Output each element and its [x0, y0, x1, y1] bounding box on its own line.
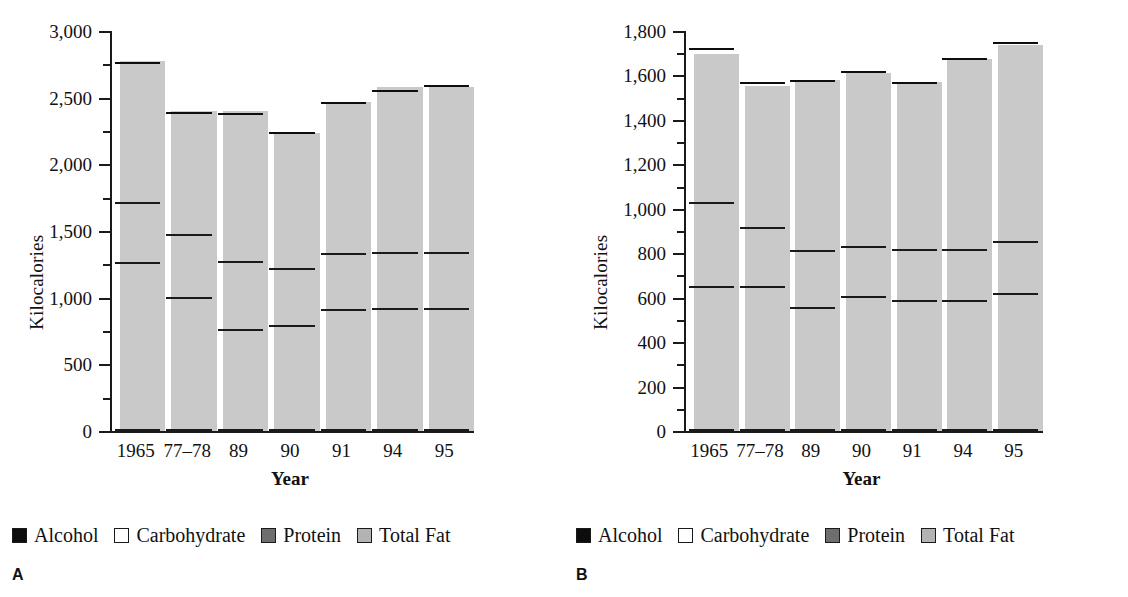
y-axis-major-tick: [99, 164, 110, 166]
bar-1965[interactable]: [689, 49, 734, 431]
bar-stack: [424, 82, 470, 431]
bar-stack: [218, 106, 264, 431]
bar-89[interactable]: [790, 75, 835, 431]
bar-segment-total-fat: [841, 429, 886, 431]
panel-letter-b: B: [576, 566, 588, 584]
bar-segment-carbohydrate: [372, 252, 418, 254]
bar-segment-total-fat: [269, 429, 315, 431]
chart-panel-a: Kilocalories 05001,0001,5002,0002,5003,0…: [0, 0, 564, 597]
legend-item-alcohol[interactable]: Alcohol: [576, 524, 662, 547]
bar-stack: [372, 82, 418, 431]
bar-95[interactable]: [424, 82, 470, 431]
y-tick-label: 1,800: [576, 22, 666, 41]
y-tick-label: 0: [2, 422, 92, 441]
bar-segment-protein: [740, 286, 785, 288]
legend-item-protein[interactable]: Protein: [261, 524, 341, 547]
bar-89[interactable]: [218, 106, 264, 431]
chart-panel-b: Kilocalories 02004006008001,0001,2001,40…: [564, 0, 1128, 597]
y-tick-label: 400: [576, 333, 666, 352]
legend-label: Alcohol: [598, 524, 662, 547]
y-axis-minor-tick: [103, 264, 110, 266]
y-axis-major-tick: [673, 431, 684, 433]
y-axis-minor-tick: [677, 231, 684, 233]
black-square-swatch-icon: [576, 528, 591, 543]
bar-90[interactable]: [269, 128, 315, 431]
y-tick-label: 800: [576, 244, 666, 263]
figure-root: Kilocalories 05001,0001,5002,0002,5003,0…: [0, 0, 1128, 597]
bar-stack: [892, 77, 937, 431]
y-tick-label: 2,000: [2, 155, 92, 174]
light-gray-square-swatch-icon: [357, 528, 372, 543]
y-axis-major-tick: [99, 298, 110, 300]
y-axis-minor-tick: [677, 364, 684, 366]
bar-segment-carbohydrate: [892, 249, 937, 251]
bar-segment-carbohydrate: [740, 227, 785, 229]
y-axis-minor-tick: [677, 409, 684, 411]
legend-label: Carbohydrate: [136, 524, 245, 547]
bar-94[interactable]: [372, 82, 418, 431]
y-tick-label: 1,200: [576, 155, 666, 174]
bar-segment-protein: [115, 262, 161, 264]
bar-segment-alcohol: [740, 82, 785, 84]
white-square-swatch-icon: [114, 528, 129, 543]
y-tick-label: 3,000: [2, 22, 92, 41]
light-gray-square-swatch-icon: [921, 528, 936, 543]
bar-segment-carbohydrate: [269, 268, 315, 270]
bar-segment-carbohydrate: [321, 253, 367, 255]
bar-segment-total-fat: [790, 429, 835, 431]
bar-segment-total-fat: [942, 429, 987, 431]
bar-95[interactable]: [993, 40, 1038, 431]
bar-stack: [942, 54, 987, 431]
bar-stack: [115, 56, 161, 431]
legend-item-carbohydrate[interactable]: Carbohydrate: [114, 524, 245, 547]
y-axis-minor-tick: [103, 131, 110, 133]
bar-91[interactable]: [892, 77, 937, 431]
bar-stack: [321, 97, 367, 431]
y-axis-minor-tick: [677, 98, 684, 100]
black-square-swatch-icon: [12, 528, 27, 543]
y-axis-minor-tick: [103, 398, 110, 400]
bar-segment-total-fat: [993, 429, 1038, 431]
legend-item-protein[interactable]: Protein: [825, 524, 905, 547]
bar-segment-total-fat: [689, 429, 734, 431]
x-tick-label: 89: [213, 441, 264, 460]
bar-segment-total-fat: [372, 429, 418, 431]
bar-94[interactable]: [942, 54, 987, 431]
bar-77–78[interactable]: [740, 81, 785, 431]
legend-item-carbohydrate[interactable]: Carbohydrate: [678, 524, 809, 547]
bar-1965[interactable]: [115, 56, 161, 431]
bar-90[interactable]: [841, 68, 886, 431]
y-axis-major-tick: [673, 209, 684, 211]
y-tick-label: 1,000: [2, 289, 92, 308]
bar-segment-total-fat: [892, 429, 937, 431]
bar-segment-protein: [689, 286, 734, 288]
bar-segment-carbohydrate: [942, 249, 987, 251]
bar-segment-total-fat: [115, 429, 161, 431]
legend-item-alcohol[interactable]: Alcohol: [12, 524, 98, 547]
legend-item-total-fat[interactable]: Total Fat: [357, 524, 450, 547]
dark-gray-square-swatch-icon: [825, 528, 840, 543]
legend-item-total-fat[interactable]: Total Fat: [921, 524, 1014, 547]
bar-stack: [689, 49, 734, 431]
y-tick-label: 200: [576, 378, 666, 397]
y-tick-label: 2,500: [2, 89, 92, 108]
bar-91[interactable]: [321, 97, 367, 431]
bar-segment-protein: [942, 300, 987, 302]
bar-segment-protein: [166, 297, 212, 299]
bar-segment-carbohydrate: [115, 202, 161, 204]
x-tick-label: 90: [836, 441, 887, 460]
bar-segment-total-fat: [424, 429, 470, 431]
x-axis-line: [110, 431, 474, 433]
y-tick-label: 600: [576, 289, 666, 308]
y-axis-major-tick: [673, 75, 684, 77]
bar-segment-alcohol: [892, 82, 937, 84]
bar-77–78[interactable]: [166, 106, 212, 431]
bar-segment-alcohol: [166, 112, 212, 114]
x-tick-label: 95: [988, 441, 1039, 460]
legend-b: AlcoholCarbohydrateProteinTotal Fat: [576, 524, 1030, 547]
bar-segment-alcohol: [689, 48, 734, 50]
y-axis-major-tick: [673, 298, 684, 300]
bar-segment-protein: [372, 308, 418, 310]
bar-segment-total-fat: [740, 429, 785, 431]
plot-area-b: 02004006008001,0001,2001,4001,6001,80019…: [684, 31, 1039, 431]
